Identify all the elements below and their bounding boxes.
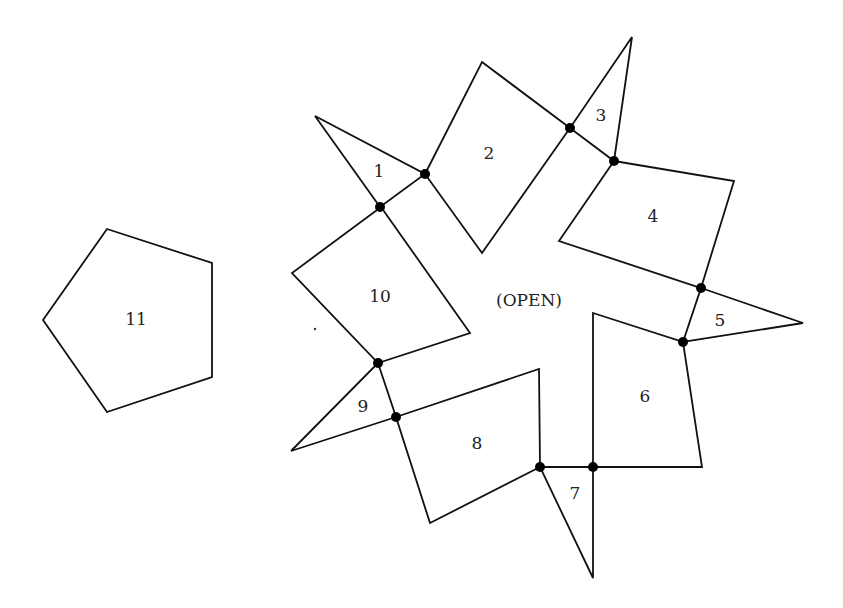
hinge-joint bbox=[588, 462, 598, 472]
piece-4-quadrilateral bbox=[559, 161, 734, 288]
hinge-joint bbox=[609, 156, 619, 166]
piece-label-6: 6 bbox=[640, 386, 651, 406]
hinge-joint bbox=[420, 169, 430, 179]
piece-label-9: 9 bbox=[358, 396, 369, 416]
piece-8-quadrilateral bbox=[396, 369, 540, 523]
piece-label-7: 7 bbox=[570, 483, 581, 503]
piece-label-5: 5 bbox=[715, 310, 726, 330]
hinge-joint bbox=[696, 283, 706, 293]
piece-label-3: 3 bbox=[596, 105, 607, 125]
piece-5-triangle bbox=[683, 288, 803, 342]
polygon-hinge-diagram: 1234567891011 (OPEN) bbox=[0, 0, 843, 608]
hinge-joint bbox=[373, 358, 383, 368]
piece-label-2: 2 bbox=[484, 143, 495, 163]
piece-1-triangle bbox=[315, 116, 425, 207]
piece-3-triangle bbox=[570, 37, 632, 161]
hinge-joint bbox=[565, 123, 575, 133]
piece-label-11: 11 bbox=[125, 309, 147, 329]
hinge-joint bbox=[375, 202, 385, 212]
piece-label-1: 1 bbox=[374, 161, 385, 181]
piece-label-10: 10 bbox=[369, 286, 391, 306]
piece-7-triangle bbox=[540, 467, 593, 578]
hinge-joint bbox=[678, 337, 688, 347]
piece-label-4: 4 bbox=[648, 206, 659, 226]
piece-9-triangle bbox=[291, 363, 396, 451]
hinge-joint bbox=[391, 412, 401, 422]
hinge-joint bbox=[535, 462, 545, 472]
pieces-layer bbox=[43, 37, 803, 578]
open-center-label: (OPEN) bbox=[496, 290, 562, 310]
stray-dot bbox=[314, 328, 316, 330]
piece-10-quadrilateral bbox=[292, 207, 470, 363]
piece-label-8: 8 bbox=[472, 433, 483, 453]
piece-2-quadrilateral bbox=[425, 62, 570, 253]
